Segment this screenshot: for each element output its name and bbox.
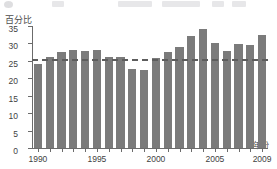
chart-figure: 百分比 年份 05101520253035 199019952000200520… [0,0,277,169]
bar [258,35,266,148]
x-tick-mark [180,149,181,152]
header-ghost-text-2 [118,1,152,7]
x-tick-mark [144,149,145,152]
y-tick-mark [28,96,32,97]
bar [69,50,77,148]
x-tick-mark [250,149,251,152]
x-tick-mark [132,149,133,152]
y-tick-label: 35 [9,29,18,30]
x-tick-label: 1995 [87,154,106,164]
x-tick-mark [97,149,98,152]
y-tick-mark [28,78,32,79]
header-ghost-text-1 [52,1,64,7]
x-tick-mark [262,149,263,152]
bar [199,29,207,148]
bar [46,57,54,148]
bar [223,51,231,148]
x-tick-label: 2009 [253,154,272,164]
y-tick-label: 0 [13,151,18,152]
x-tick-mark [227,149,228,152]
x-axis-ticks: 19901995200020052009 [32,149,268,169]
x-tick-mark [156,149,157,152]
y-tick-mark [28,61,32,62]
x-tick-mark [73,149,74,152]
header-ghost-text-4 [212,1,224,7]
bar [175,47,183,148]
bar [57,52,65,148]
header-ghost-text-3 [162,1,200,7]
bar [93,50,101,148]
x-tick-mark [168,149,169,152]
y-tick-mark [28,131,32,132]
plot-area: 05101520253035 [32,26,268,148]
x-tick-mark [239,149,240,152]
bar [187,36,195,148]
header-ghost-text-5 [232,1,246,7]
y-tick-label: 10 [9,116,18,117]
y-tick-label: 30 [9,46,18,47]
x-tick-mark [62,149,63,152]
x-tick-mark [109,149,110,152]
x-tick-mark [50,149,51,152]
y-tick-label: 5 [13,134,18,135]
y-tick-label: 20 [9,81,18,82]
bar [164,52,172,148]
header-ghost-icon [4,1,13,8]
x-tick-mark [38,149,39,152]
x-tick-label: 2000 [146,154,165,164]
x-tick-mark [215,149,216,152]
bar [116,57,124,148]
cropped-header-strip [0,0,277,11]
x-tick-mark [191,149,192,152]
bar [128,69,136,148]
x-tick-label: 1990 [28,154,47,164]
y-tick-mark [28,43,32,44]
y-tick-label: 25 [9,64,18,65]
x-tick-mark [85,149,86,152]
reference-line [32,59,268,61]
bar [81,51,89,148]
y-tick-label: 15 [9,99,18,100]
y-tick-mark [28,26,32,27]
bar [152,58,160,148]
bar [34,64,42,148]
x-tick-mark [121,149,122,152]
y-tick-mark [28,113,32,114]
x-tick-mark [203,149,204,152]
x-tick-label: 2005 [205,154,224,164]
bar [140,70,148,148]
bar [105,57,113,148]
